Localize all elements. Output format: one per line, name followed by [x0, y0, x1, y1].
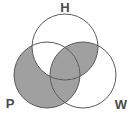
- set-label-h: H: [60, 0, 69, 15]
- set-label-w: W: [115, 97, 128, 112]
- venn-diagram: H P W: [0, 0, 130, 124]
- shaded-regions: [14, 42, 116, 108]
- venn-diagram-canvas: H P W: [0, 0, 130, 124]
- set-label-p: P: [6, 96, 15, 111]
